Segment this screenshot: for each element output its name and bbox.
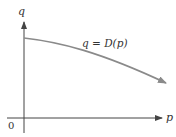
y-axis-label: q bbox=[18, 6, 25, 17]
demand-diagram bbox=[0, 0, 176, 137]
origin-label: 0 bbox=[8, 121, 14, 131]
curve-label: q = D(p) bbox=[82, 38, 128, 49]
x-axis-label: p bbox=[166, 112, 173, 123]
